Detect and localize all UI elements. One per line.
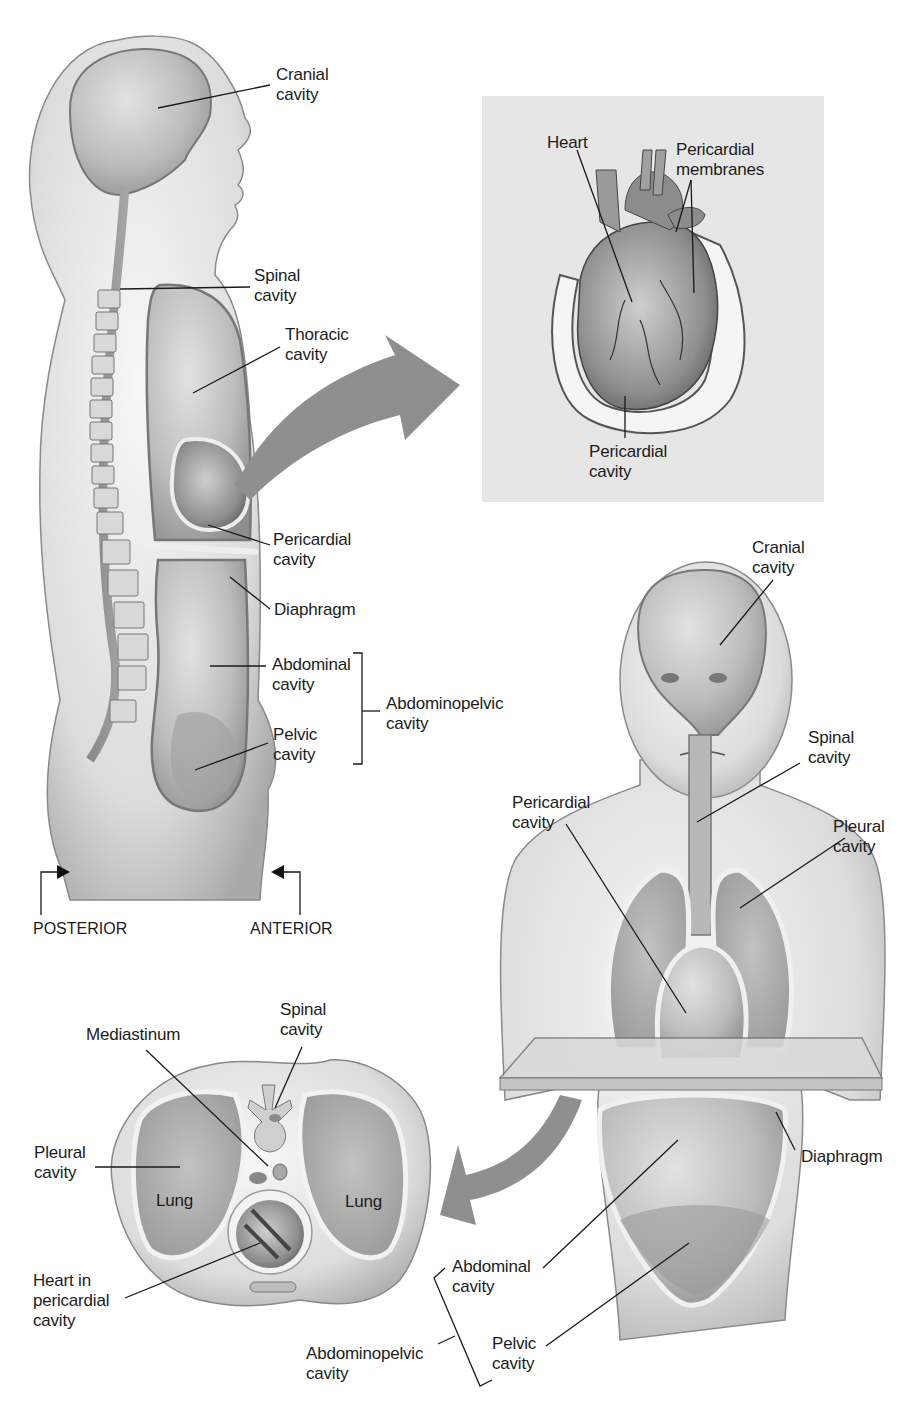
label-cross-spinal-cavity: Spinal cavity xyxy=(280,1000,326,1040)
label-inset-pericardial-cavity: Pericardial cavity xyxy=(589,442,667,482)
label-cross-pleural-cavity: Pleural cavity xyxy=(34,1143,86,1183)
arrow-to-cross-section xyxy=(440,1095,582,1225)
label-heart-in-pericardial-cavity: Heart in pericardial cavity xyxy=(33,1271,109,1331)
label-anterior-pericardial-cavity: Pericardial cavity xyxy=(512,793,590,833)
label-anterior-pelvic-cavity: Pelvic cavity xyxy=(492,1334,536,1374)
label-anterior-cranial-cavity: Cranial cavity xyxy=(752,538,804,578)
anterior-arrowhead xyxy=(271,865,284,879)
label-sagittal-diaphragm: Diaphragm xyxy=(274,600,355,620)
label-anterior-abdominal-cavity: Abdominal cavity xyxy=(452,1257,531,1297)
label-sagittal-pelvic-cavity: Pelvic cavity xyxy=(273,725,317,765)
label-lung-left: Lung xyxy=(156,1191,193,1211)
label-sagittal-pericardial-cavity: Pericardial cavity xyxy=(273,530,351,570)
label-anterior-pleural-cavity: Pleural cavity xyxy=(833,817,885,857)
label-sagittal-spinal-cavity: Spinal cavity xyxy=(254,266,300,306)
label-anterior-diaphragm: Diaphragm xyxy=(801,1147,882,1167)
label-sagittal-abdominal-cavity: Abdominal cavity xyxy=(272,655,351,695)
label-anterior: ANTERIOR xyxy=(250,919,333,939)
thoracic-cross-section xyxy=(111,1060,430,1306)
sagittal-body xyxy=(30,36,276,900)
label-sagittal-thoracic-cavity: Thoracic cavity xyxy=(285,325,349,365)
label-lung-right: Lung xyxy=(345,1192,382,1212)
label-pericardial-membranes: Pericardial membranes xyxy=(676,140,764,180)
label-heart: Heart xyxy=(547,133,588,153)
anterior-body xyxy=(500,562,885,1340)
label-mediastinum: Mediastinum xyxy=(86,1025,180,1045)
label-sagittal-cranial-cavity: Cranial cavity xyxy=(276,65,328,105)
body-cavities-figure: Cranial cavity Spinal cavity Thoracic ca… xyxy=(0,0,922,1428)
label-posterior: POSTERIOR xyxy=(33,919,127,939)
label-sagittal-abdominopelvic-cavity: Abdominopelvic cavity xyxy=(386,694,503,734)
label-anterior-spinal-cavity: Spinal cavity xyxy=(808,728,854,768)
label-anterior-abdominopelvic-cavity: Abdominopelvic cavity xyxy=(306,1344,423,1384)
